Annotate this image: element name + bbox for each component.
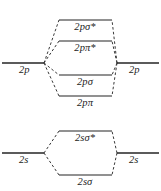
corr-right-2p-sigma-star [112,20,117,63]
corr-right-2s-sigma-star [112,131,117,153]
atomic-label-2p-left: 2p [19,65,30,76]
level-label-2p-sigma: 2pσ [77,77,93,88]
level-label-2p-pi: 2pπ [77,98,93,109]
corr-right-2s-sigma [112,153,117,175]
corr-left-2p-sigma-star [44,20,59,63]
level-label-2s-sigma: 2sσ [78,177,93,188]
corr-right-2p-pi-star [112,41,117,63]
atomic-label-2p-right: 2p [129,65,140,76]
atomic-label-2s-right: 2s [129,155,139,166]
level-label-2p-sigma-star: 2pσ* [74,22,95,33]
level-label-2p-pi-star: 2pπ* [74,43,95,54]
level-label-2s-sigma-star: 2sσ* [75,133,95,144]
corr-left-2p-pi [44,63,59,96]
corr-left-2p-pi-star [44,41,59,63]
corr-left-2s-sigma-star [44,131,59,153]
atomic-label-2s-left: 2s [19,155,29,166]
mo-energy-level-diagram: 2pσ* 2pπ* 2pσ 2pπ 2p 2p 2sσ* 2sσ 2s 2s [0,0,161,191]
corr-left-2s-sigma [44,153,59,175]
